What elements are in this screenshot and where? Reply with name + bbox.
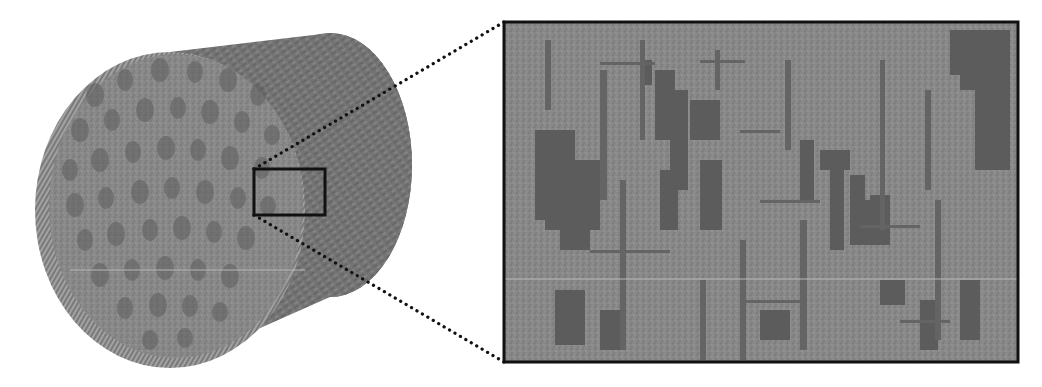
vertical-streak: [640, 40, 645, 140]
horizontal-streak: [740, 300, 800, 303]
vertical-streak: [785, 60, 791, 150]
pore: [156, 256, 174, 280]
vertical-streak: [935, 200, 941, 340]
pore-region: [830, 170, 844, 250]
horizontal-streak: [740, 130, 780, 133]
pore: [237, 226, 255, 250]
pore: [131, 180, 149, 204]
vertical-streak: [880, 60, 885, 230]
vertical-streak: [620, 180, 626, 350]
horizontal-streak: [760, 200, 820, 203]
pore: [151, 58, 169, 82]
pore-region: [820, 150, 850, 170]
pore: [230, 187, 246, 209]
pore-region: [800, 140, 814, 200]
pore: [250, 84, 266, 106]
vertical-streak: [545, 40, 551, 110]
pore-region: [560, 210, 590, 250]
pore: [206, 221, 222, 243]
vertical-streak: [700, 280, 706, 360]
figure-canvas: [0, 0, 1042, 387]
horizontal-streak: [900, 320, 950, 323]
pore: [219, 68, 237, 92]
pore-region: [760, 310, 790, 340]
pore: [125, 141, 141, 163]
pore: [142, 219, 158, 241]
pore: [142, 330, 158, 350]
pore-region: [975, 90, 1010, 170]
pore: [187, 61, 203, 83]
pore: [182, 295, 198, 317]
pore: [177, 328, 193, 348]
pore-region: [880, 280, 905, 305]
pore: [264, 125, 280, 145]
pore: [157, 136, 175, 160]
pore-region: [600, 310, 620, 350]
pore: [170, 97, 186, 119]
horizontal-streak: [600, 62, 655, 65]
cylinder-sample: [35, 33, 412, 368]
vertical-streak: [600, 70, 607, 200]
pore: [117, 69, 133, 91]
pore: [234, 111, 250, 133]
pore-region: [690, 100, 720, 140]
pore: [190, 139, 206, 161]
pore-region: [960, 70, 1010, 90]
pore: [164, 177, 180, 199]
cylinder-zoom-diagram: [0, 0, 1042, 387]
pore-region: [700, 160, 722, 230]
magnified-inset: [504, 22, 1018, 362]
pore-region: [950, 30, 1010, 75]
pore: [196, 180, 214, 204]
pore: [221, 264, 239, 288]
pore: [66, 193, 84, 217]
horizontal-streak: [590, 250, 670, 253]
pore: [91, 263, 109, 287]
pore-region: [960, 280, 980, 340]
pore: [98, 187, 114, 209]
pore: [86, 83, 104, 107]
pore: [71, 118, 89, 142]
pore: [136, 98, 154, 122]
pore-region: [660, 170, 678, 230]
pore: [77, 229, 93, 251]
vertical-streak: [800, 220, 807, 350]
pore: [91, 148, 109, 172]
pore: [201, 100, 219, 124]
horizontal-streak: [860, 225, 920, 228]
pore: [260, 196, 276, 216]
pore-region: [555, 290, 585, 345]
pore: [62, 159, 78, 181]
pore: [212, 302, 228, 322]
pore: [117, 297, 133, 319]
horizontal-streak: [700, 60, 745, 63]
pore: [104, 109, 120, 131]
pore: [173, 216, 191, 240]
pore: [221, 146, 239, 170]
vertical-streak: [925, 90, 931, 190]
pore: [107, 222, 125, 246]
pore: [149, 293, 167, 317]
vertical-streak: [715, 50, 720, 90]
